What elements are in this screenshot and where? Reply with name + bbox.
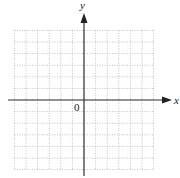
- origin-label: 0: [74, 101, 80, 113]
- y-axis-arrow-icon: [81, 13, 88, 23]
- coordinate-plane: x y 0: [0, 0, 180, 178]
- x-axis-arrow-icon: [162, 97, 172, 104]
- x-axis-label: x: [173, 94, 179, 106]
- y-axis-label: y: [79, 0, 85, 11]
